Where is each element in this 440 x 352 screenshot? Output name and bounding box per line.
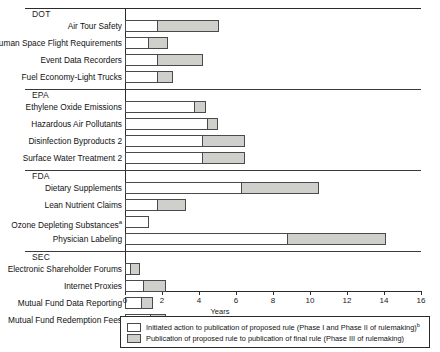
legend-item-phase12: Initiated action to publication of propo… bbox=[127, 322, 420, 332]
chart-container: DOTEPAFDASEC Air Tour SafetyHuman Space … bbox=[0, 0, 440, 352]
chart-row: Electronic Shareholder Forums bbox=[0, 263, 440, 276]
bar-segment-phase3 bbox=[287, 233, 386, 245]
chart-row: Event Data Recorders bbox=[0, 54, 440, 67]
bar-segment-phase3 bbox=[157, 71, 173, 83]
x-tick-label: 10 bbox=[306, 296, 315, 305]
bar-group bbox=[125, 118, 421, 131]
bar-segment-phase3 bbox=[157, 20, 219, 32]
group-separator-fda bbox=[25, 170, 421, 171]
bar-segment-phase3 bbox=[143, 280, 166, 292]
chart-row: Air Tour Safety bbox=[0, 20, 440, 33]
row-label: Internet Proxies bbox=[64, 281, 122, 292]
x-tick-label: 16 bbox=[417, 296, 426, 305]
row-label: Fuel Economy-Light Trucks bbox=[21, 72, 122, 83]
x-tick-label: 4 bbox=[197, 296, 201, 305]
group-separator-epa bbox=[25, 89, 421, 90]
bar-segment-phase3 bbox=[130, 263, 140, 275]
chart-row: Dietary Supplements bbox=[0, 182, 440, 195]
bar-group bbox=[125, 216, 421, 229]
bar-group bbox=[125, 101, 421, 114]
chart-row: Ozone Depleting Substancesa bbox=[0, 216, 440, 229]
x-tick bbox=[310, 292, 311, 295]
x-tick bbox=[347, 292, 348, 295]
bar-segment-phase3 bbox=[241, 182, 320, 194]
bar-group bbox=[125, 152, 421, 165]
bar-group bbox=[125, 263, 421, 276]
bar-segment-phase3 bbox=[202, 152, 246, 164]
x-tick bbox=[236, 292, 237, 295]
row-note-marker: a bbox=[119, 219, 122, 225]
bar-segment-phase12 bbox=[125, 101, 195, 113]
row-label: Air Tour Safety bbox=[68, 21, 122, 32]
bar-segment-phase12 bbox=[125, 233, 288, 245]
chart-row: Human Space Flight Requirements bbox=[0, 37, 440, 50]
bar-segment-phase3 bbox=[207, 118, 217, 130]
x-axis-title: Years bbox=[0, 307, 440, 316]
bar-group bbox=[125, 37, 421, 50]
bar-segment-phase12 bbox=[125, 152, 203, 164]
bar-segment-phase12 bbox=[125, 20, 158, 32]
group-label-sec: SEC bbox=[30, 252, 52, 262]
group-separator-sec bbox=[25, 251, 421, 252]
x-tick bbox=[199, 292, 200, 295]
chart-legend: Initiated action to publication of propo… bbox=[120, 316, 430, 348]
x-tick-label: 2 bbox=[160, 296, 164, 305]
row-label: Ethylene Oxide Emissions bbox=[26, 102, 122, 113]
legend-swatch-white-icon bbox=[127, 323, 141, 332]
group-label-dot: DOT bbox=[30, 9, 53, 19]
bar-segment-phase3 bbox=[157, 54, 202, 66]
chart-row: Surface Water Treatment 2 bbox=[0, 152, 440, 165]
x-tick bbox=[162, 292, 163, 295]
legend-swatch-gray-icon bbox=[127, 334, 141, 343]
bar-segment-phase12 bbox=[125, 118, 208, 130]
row-label: Electronic Shareholder Forums bbox=[8, 264, 122, 275]
row-label: Physician Labeling bbox=[53, 234, 122, 245]
bar-segment-phase12 bbox=[125, 216, 149, 228]
bar-segment-phase3 bbox=[194, 101, 206, 113]
chart-row: Hazardous Air Pollutants bbox=[0, 118, 440, 131]
chart-row: Disinfection Byproducts 2 bbox=[0, 135, 440, 148]
x-tick bbox=[273, 292, 274, 295]
chart-row: Physician Labeling bbox=[0, 233, 440, 246]
row-label: Human Space Flight Requirements bbox=[0, 38, 122, 49]
x-tick bbox=[421, 292, 422, 295]
chart-row: Fuel Economy-Light Trucks bbox=[0, 71, 440, 84]
legend-item-phase3: Publication of proposed rule to publicat… bbox=[127, 334, 404, 343]
x-tick-label: 0 bbox=[123, 296, 127, 305]
bar-group bbox=[125, 182, 421, 195]
x-tick-label: 12 bbox=[343, 296, 352, 305]
bar-group bbox=[125, 233, 421, 246]
bar-group bbox=[125, 54, 421, 67]
x-tick-label: 14 bbox=[380, 296, 389, 305]
row-label: Disinfection Byproducts 2 bbox=[28, 136, 122, 147]
group-label-epa: EPA bbox=[30, 90, 51, 100]
row-label: Surface Water Treatment 2 bbox=[23, 153, 122, 164]
bar-segment-phase12 bbox=[125, 280, 144, 292]
chart-row: Lean Nutrient Claims bbox=[0, 199, 440, 212]
x-tick-label: 6 bbox=[234, 296, 238, 305]
bar-group bbox=[125, 135, 421, 148]
bar-segment-phase12 bbox=[125, 182, 242, 194]
x-tick bbox=[384, 292, 385, 295]
legend-label-phase12: Initiated action to publication of propo… bbox=[146, 322, 420, 332]
row-label: Event Data Recorders bbox=[40, 55, 122, 66]
row-label: Ozone Depleting Substancesa bbox=[11, 217, 122, 231]
row-label: Mutual Fund Redemption Fees bbox=[8, 315, 122, 326]
bar-segment-phase3 bbox=[157, 199, 186, 211]
row-label: Hazardous Air Pollutants bbox=[31, 119, 122, 130]
x-tick bbox=[125, 292, 126, 295]
x-tick-label: 8 bbox=[271, 296, 275, 305]
bar-segment-phase3 bbox=[202, 135, 246, 147]
y-axis-line bbox=[125, 8, 126, 292]
bar-group bbox=[125, 199, 421, 212]
bar-segment-phase12 bbox=[125, 199, 158, 211]
group-label-fda: FDA bbox=[30, 171, 52, 181]
group-separator-dot bbox=[25, 8, 421, 9]
chart-row: Internet Proxies bbox=[0, 280, 440, 293]
bar-segment-phase12 bbox=[125, 135, 203, 147]
bar-segment-phase12 bbox=[125, 37, 149, 49]
bar-group bbox=[125, 20, 421, 33]
bar-segment-phase12 bbox=[125, 71, 158, 83]
legend-label-phase3: Publication of proposed rule to publicat… bbox=[146, 334, 404, 343]
bar-group bbox=[125, 71, 421, 84]
